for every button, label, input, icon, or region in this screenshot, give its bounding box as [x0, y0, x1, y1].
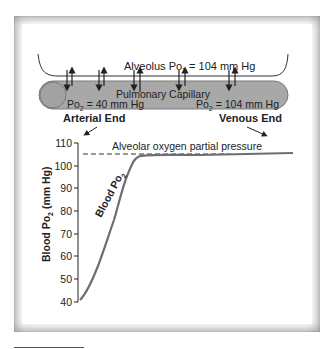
alveolus-po2-label: Alveolus Po2 = 104 mm Hg [124, 60, 255, 74]
svg-text:50: 50 [60, 273, 72, 285]
venous-end-label: Venous End [219, 112, 282, 124]
svg-text:80: 80 [60, 205, 72, 217]
y-tick-labels: 110 100 90 80 70 60 50 40 [54, 137, 72, 308]
y-axis [74, 143, 78, 302]
alveolar-pressure-label: Alveolar oxygen partial pressure [112, 140, 262, 152]
footnote-rule [14, 347, 84, 348]
svg-text:60: 60 [60, 250, 72, 262]
svg-text:110: 110 [55, 137, 72, 149]
svg-text:90: 90 [60, 182, 72, 194]
blood-po2-curve-label: Blood Po2 [92, 169, 128, 220]
arterial-end-arrow-icon [86, 127, 97, 134]
y-axis-label: Blood Po2 (mm Hg) [40, 167, 54, 262]
capillary-end-cap [40, 82, 66, 108]
arterial-end-label: Arterial End [63, 112, 125, 124]
svg-text:100: 100 [54, 160, 72, 172]
venous-po2-label: Po2 = 104 mm Hg [196, 98, 279, 112]
venous-end-arrow-icon [247, 127, 265, 135]
svg-text:40: 40 [60, 296, 72, 308]
oxygen-diffusion-diagram: Alveolus Po2 = 104 mm Hg Pulmonary Capil… [0, 0, 335, 349]
arterial-po2-label: Po2 = 40 mm Hg [67, 98, 144, 112]
svg-text:70: 70 [60, 228, 72, 240]
